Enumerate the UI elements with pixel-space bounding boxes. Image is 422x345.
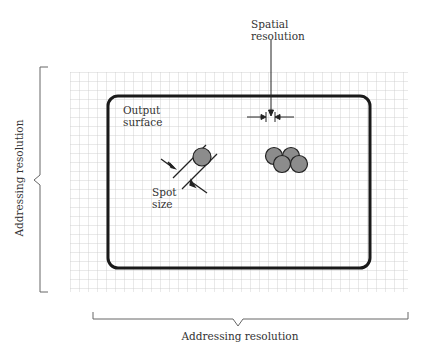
vertical-brace-icon [34, 67, 48, 292]
addressing-resolution-horizontal-label: Addressing resolution [180, 330, 300, 342]
single-spot [193, 148, 211, 166]
output-surface-line2: surface [123, 116, 162, 128]
horizontal-brace-icon [93, 312, 408, 326]
spatial-resolution-line2: resolution [251, 30, 305, 42]
spot-size-label: Spot size [152, 186, 176, 210]
spot-size-line2: size [152, 198, 176, 210]
spatial-resolution-line1: Spatial [251, 18, 305, 30]
spatial-resolution-label: Spatial resolution [251, 18, 305, 42]
output-surface-label: Output surface [123, 104, 162, 128]
addressing-grid [70, 72, 408, 292]
diagram-canvas [0, 0, 422, 345]
addressing-resolution-vertical-label: Addressing resolution [13, 118, 25, 238]
output-surface-line1: Output [123, 104, 162, 116]
spot-size-line1: Spot [152, 186, 176, 198]
